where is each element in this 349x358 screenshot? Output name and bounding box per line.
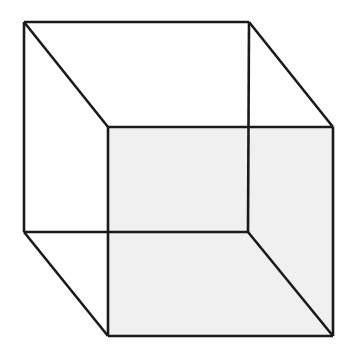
figure-root — [0, 0, 349, 358]
necker-cube-figure — [0, 0, 349, 358]
